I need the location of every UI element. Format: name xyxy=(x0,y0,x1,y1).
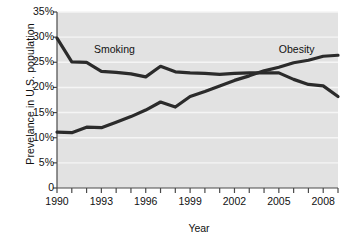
x-axis-tick-label: 2008 xyxy=(303,196,343,207)
x-axis-tick-label: 2005 xyxy=(259,196,299,207)
series-label-obesity: Obesity xyxy=(279,43,315,55)
x-axis-title: Year xyxy=(60,222,338,234)
chart-figure: Prevelance in U.S. population 05%10%15%2… xyxy=(0,0,350,243)
x-axis-tick-labels: 1990199319961999200220052008 xyxy=(0,0,350,243)
x-axis-tick-label: 1990 xyxy=(37,196,77,207)
x-axis-tick-label: 1999 xyxy=(170,196,210,207)
series-label-smoking: Smoking xyxy=(94,43,135,55)
x-axis-tick-label: 1993 xyxy=(81,196,121,207)
x-axis-tick-label: 1996 xyxy=(126,196,166,207)
x-axis-tick-label: 2002 xyxy=(214,196,254,207)
